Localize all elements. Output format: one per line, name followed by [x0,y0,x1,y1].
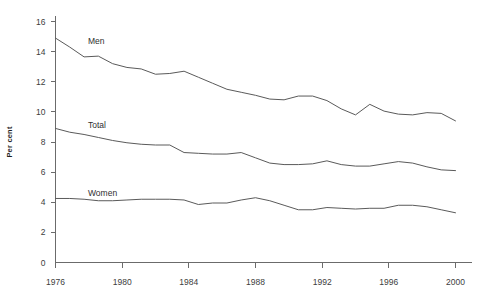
series-label-women: Women [88,188,117,198]
x-tick-label: 1976 [46,277,65,287]
x-axis: 1976198019841988199219962000 [46,263,472,287]
x-tick-label: 1988 [246,277,265,287]
y-tick-label: 10 [36,107,46,117]
y-axis: 0246810121416 [36,16,55,268]
series-line-total [56,128,456,170]
y-tick-label: 14 [36,47,46,57]
chart-canvas: 0246810121416 19761980198419881992199620… [0,0,477,304]
x-tick-label: 1992 [313,277,332,287]
y-tick-label: 0 [41,258,46,268]
y-axis-title: Per cent [5,126,14,157]
y-axis-tick-labels: 0246810121416 [36,17,46,268]
x-tick-label: 2000 [446,277,465,287]
y-tick-label: 2 [41,227,46,237]
x-axis-ticks [56,263,456,268]
y-tick-label: 6 [41,167,46,177]
y-tick-label: 12 [36,77,46,87]
series-line-men [56,38,456,121]
y-tick-label: 16 [36,17,46,27]
y-tick-label: 4 [41,197,46,207]
series-label-men: Men [88,36,105,46]
x-tick-label: 1996 [379,277,398,287]
series-label-total: Total [88,120,106,130]
x-tick-label: 1984 [179,277,198,287]
x-axis-tick-labels: 1976198019841988199219962000 [46,277,465,287]
y-tick-label: 8 [41,137,46,147]
series-lines [56,38,456,213]
y-axis-ticks [51,22,56,233]
line-chart: 0246810121416 19761980198419881992199620… [0,0,477,304]
x-tick-label: 1980 [113,277,132,287]
series-line-women [56,198,456,213]
